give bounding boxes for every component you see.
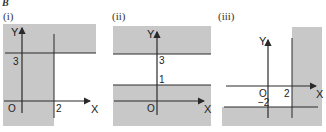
panel-2-y-label: Y	[147, 28, 155, 40]
panel-1-tick-y: 3	[13, 56, 19, 67]
panel-1-origin: O	[8, 103, 16, 114]
panel-3-shade-bottom	[222, 107, 322, 126]
panel-1-graph: Y X O 3 2	[3, 24, 99, 126]
panel-2-x-label: X	[204, 103, 212, 115]
panel-3-graph: Y X O 2 −2	[222, 27, 324, 126]
panel-2-shade-bottom	[113, 85, 211, 126]
panel-3-y-label: Y	[259, 35, 267, 47]
panel-2-tick-y3: 3	[159, 55, 165, 66]
panel-1-x-label: X	[91, 103, 99, 115]
panel-3-tick-x: 2	[284, 88, 290, 99]
panel-2-graph: Y X O 3 1	[113, 26, 212, 126]
panel-3-x-label: X	[316, 88, 324, 100]
diagram-canvas: Y X O 3 2 Y X O 3 1 Y X O 2 −2	[0, 0, 326, 132]
panel-2-shade-top	[113, 26, 211, 54]
panel-1-shade-left	[3, 53, 54, 126]
panel-1-y-label: Y	[11, 26, 19, 38]
panel-2-tick-y1: 1	[159, 74, 165, 85]
panel-3-tick-y: −2	[258, 97, 270, 108]
panel-2-origin: O	[147, 103, 155, 114]
panel-1-tick-x: 2	[56, 103, 62, 114]
